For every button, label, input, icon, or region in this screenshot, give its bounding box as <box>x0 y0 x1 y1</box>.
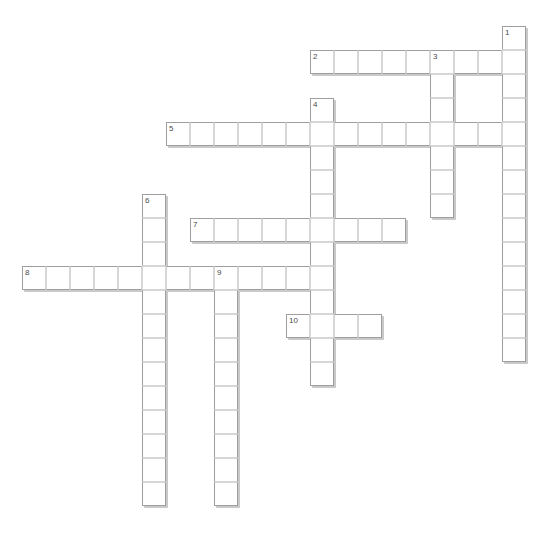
crossword-cell[interactable] <box>502 146 526 170</box>
crossword-cell[interactable] <box>358 50 382 74</box>
crossword-puzzle: 12345678910 <box>0 0 560 536</box>
crossword-cell[interactable] <box>166 122 190 146</box>
crossword-cell[interactable] <box>310 242 334 266</box>
crossword-cell[interactable] <box>430 74 454 98</box>
crossword-cell[interactable] <box>214 482 238 506</box>
crossword-cell[interactable] <box>334 314 358 338</box>
crossword-cell[interactable] <box>502 50 526 74</box>
crossword-cell[interactable] <box>310 338 334 362</box>
crossword-cell[interactable] <box>430 98 454 122</box>
crossword-cell[interactable] <box>214 122 238 146</box>
crossword-cell[interactable] <box>262 266 286 290</box>
crossword-cell[interactable] <box>310 314 334 338</box>
crossword-cell[interactable] <box>214 386 238 410</box>
crossword-cell[interactable] <box>142 290 166 314</box>
crossword-cell[interactable] <box>238 122 262 146</box>
crossword-cell[interactable] <box>478 122 502 146</box>
crossword-cell[interactable] <box>310 194 334 218</box>
crossword-cell[interactable] <box>310 50 334 74</box>
crossword-cell[interactable] <box>286 266 310 290</box>
crossword-cell[interactable] <box>430 122 454 146</box>
crossword-cell[interactable] <box>502 122 526 146</box>
crossword-cell[interactable] <box>358 122 382 146</box>
crossword-cell[interactable] <box>190 122 214 146</box>
crossword-cell[interactable] <box>358 218 382 242</box>
crossword-cell[interactable] <box>502 74 526 98</box>
crossword-cell[interactable] <box>214 266 238 290</box>
crossword-cell[interactable] <box>262 122 286 146</box>
crossword-cell[interactable] <box>238 266 262 290</box>
crossword-cell[interactable] <box>502 266 526 290</box>
crossword-cell[interactable] <box>382 218 406 242</box>
crossword-cell[interactable] <box>214 338 238 362</box>
crossword-cell[interactable] <box>334 50 358 74</box>
crossword-cell[interactable] <box>310 362 334 386</box>
crossword-cell[interactable] <box>142 386 166 410</box>
crossword-cell[interactable] <box>142 194 166 218</box>
crossword-cell[interactable] <box>310 266 334 290</box>
crossword-cell[interactable] <box>214 458 238 482</box>
crossword-cell[interactable] <box>22 266 46 290</box>
crossword-cell[interactable] <box>310 290 334 314</box>
crossword-cell[interactable] <box>238 218 262 242</box>
crossword-cell[interactable] <box>214 218 238 242</box>
crossword-cell[interactable] <box>262 218 286 242</box>
crossword-cell[interactable] <box>310 122 334 146</box>
crossword-cell[interactable] <box>430 194 454 218</box>
crossword-cell[interactable] <box>142 482 166 506</box>
crossword-cell[interactable] <box>406 122 430 146</box>
crossword-cell[interactable] <box>142 434 166 458</box>
crossword-cell[interactable] <box>502 194 526 218</box>
crossword-cell[interactable] <box>142 266 166 290</box>
crossword-cell[interactable] <box>502 170 526 194</box>
crossword-cell[interactable] <box>142 338 166 362</box>
crossword-cell[interactable] <box>454 122 478 146</box>
crossword-cell[interactable] <box>454 50 478 74</box>
crossword-cell[interactable] <box>286 314 310 338</box>
crossword-cell[interactable] <box>70 266 94 290</box>
crossword-cell[interactable] <box>94 266 118 290</box>
crossword-cell[interactable] <box>214 290 238 314</box>
crossword-cell[interactable] <box>502 242 526 266</box>
crossword-cell[interactable] <box>214 434 238 458</box>
crossword-cell[interactable] <box>430 146 454 170</box>
crossword-cell[interactable] <box>190 266 214 290</box>
crossword-cell[interactable] <box>142 458 166 482</box>
crossword-grid[interactable]: 12345678910 <box>0 0 560 536</box>
crossword-cell[interactable] <box>142 410 166 434</box>
crossword-cell[interactable] <box>502 338 526 362</box>
crossword-cell[interactable] <box>166 266 190 290</box>
crossword-cell[interactable] <box>502 98 526 122</box>
crossword-cell[interactable] <box>118 266 142 290</box>
crossword-cell[interactable] <box>502 218 526 242</box>
crossword-cell[interactable] <box>334 122 358 146</box>
crossword-cell[interactable] <box>382 50 406 74</box>
crossword-cell[interactable] <box>358 314 382 338</box>
crossword-cell[interactable] <box>502 314 526 338</box>
crossword-cell[interactable] <box>406 50 430 74</box>
crossword-cell[interactable] <box>214 362 238 386</box>
crossword-cell[interactable] <box>46 266 70 290</box>
crossword-cell[interactable] <box>502 290 526 314</box>
crossword-cell[interactable] <box>310 146 334 170</box>
crossword-cell[interactable] <box>430 50 454 74</box>
crossword-cell[interactable] <box>310 170 334 194</box>
crossword-cell[interactable] <box>190 218 214 242</box>
crossword-cell[interactable] <box>382 122 406 146</box>
crossword-cell[interactable] <box>142 362 166 386</box>
crossword-cell[interactable] <box>310 98 334 122</box>
crossword-cell[interactable] <box>430 170 454 194</box>
crossword-cell[interactable] <box>502 26 526 50</box>
crossword-cell[interactable] <box>142 242 166 266</box>
crossword-cell[interactable] <box>214 314 238 338</box>
crossword-cell[interactable] <box>478 50 502 74</box>
crossword-cell[interactable] <box>286 122 310 146</box>
crossword-cell[interactable] <box>310 218 334 242</box>
crossword-cell[interactable] <box>142 314 166 338</box>
crossword-cell[interactable] <box>214 410 238 434</box>
crossword-cell[interactable] <box>334 218 358 242</box>
crossword-cell[interactable] <box>286 218 310 242</box>
crossword-cell[interactable] <box>142 218 166 242</box>
